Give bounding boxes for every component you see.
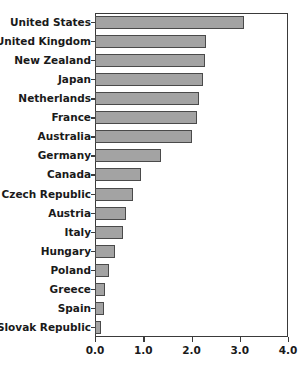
category-label: Austria [0,204,91,223]
category-label: Slovak Republic [0,318,91,337]
bar-row: Poland [0,261,308,280]
x-axis-tick [288,337,289,342]
category-label: Australia [0,127,91,146]
bar[interactable] [95,283,105,296]
bar[interactable] [95,207,126,220]
bar-row: Slovak Republic [0,318,308,337]
x-axis-tick-label: 0.0 [75,344,115,356]
bar[interactable] [95,54,205,67]
bar[interactable] [95,264,109,277]
bar[interactable] [95,321,101,334]
bar-row: Greece [0,280,308,299]
bar-row: Japan [0,70,308,89]
bar[interactable] [95,16,244,29]
bar-row: Spain [0,299,308,318]
x-axis-tick-label: 2.0 [172,344,212,356]
bar-row: United Kingdom [0,32,308,51]
x-axis-tick-label: 3.0 [220,344,260,356]
bar-row: United States [0,13,308,32]
bar-row: New Zealand [0,51,308,70]
bar[interactable] [95,302,104,315]
bar-row: Netherlands [0,89,308,108]
category-label: United Kingdom [0,32,91,51]
category-label: Netherlands [0,89,91,108]
category-label: Spain [0,299,91,318]
bar[interactable] [95,168,141,181]
x-axis-tick-label: 4.0 [268,344,308,356]
bar[interactable] [95,245,115,258]
x-axis-tick [95,337,96,342]
bar[interactable] [95,111,197,124]
bar-row: France [0,108,308,127]
category-label: Poland [0,261,91,280]
category-label: France [0,108,91,127]
bar[interactable] [95,226,123,239]
bar[interactable] [95,130,192,143]
category-label: Japan [0,70,91,89]
bar-row: Australia [0,127,308,146]
category-label: Hungary [0,242,91,261]
category-label: Italy [0,223,91,242]
x-axis-tick [240,337,241,342]
category-label: Greece [0,280,91,299]
category-label: New Zealand [0,51,91,70]
bar[interactable] [95,35,206,48]
bar-row: Canada [0,165,308,184]
x-axis-tick [192,337,193,342]
bar-chart: United StatesUnited KingdomNew ZealandJa… [0,0,308,368]
bar-row: Czech Republic [0,185,308,204]
bar-row: Italy [0,223,308,242]
bar-row: Germany [0,146,308,165]
category-label: Czech Republic [0,185,91,204]
category-label: Canada [0,165,91,184]
bar[interactable] [95,149,161,162]
bar[interactable] [95,92,199,105]
x-axis-tick [143,337,144,342]
bar[interactable] [95,73,203,86]
category-label: United States [0,13,91,32]
bar-row: Austria [0,204,308,223]
bar[interactable] [95,188,133,201]
x-axis-tick-label: 1.0 [123,344,163,356]
category-label: Germany [0,146,91,165]
bar-row: Hungary [0,242,308,261]
